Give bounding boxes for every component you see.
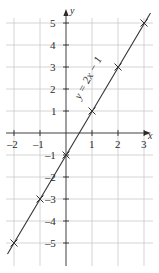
plotted-line xyxy=(8,13,151,254)
y-tick-label-neg5: –5 xyxy=(45,238,56,249)
x-tick-label-1: 1 xyxy=(89,139,94,150)
y-tick-label-4: 4 xyxy=(50,40,55,51)
y-axis-name-label: y xyxy=(70,6,74,16)
y-axis-arrowhead xyxy=(63,9,68,16)
y-tick-label-neg3: –3 xyxy=(45,194,56,205)
y-tick-label-neg2: –2 xyxy=(45,172,56,183)
x-tick-label-neg1: –1 xyxy=(33,139,44,150)
y-axis xyxy=(63,9,68,266)
y-tick-label-1: 1 xyxy=(51,106,56,117)
y-tick-label-neg4: –4 xyxy=(45,216,56,227)
plot-canvas xyxy=(0,0,159,273)
y-tick-label-neg1: –1 xyxy=(45,150,56,161)
x-tick-label-3: 3 xyxy=(141,139,146,150)
line-graph-figure: 5 4 3 2 1 –1 –2 –3 –4 –5 –2 –1 1 2 3 y x… xyxy=(0,0,159,273)
x-axis-name-label: x xyxy=(148,131,152,141)
x-tick-label-2: 2 xyxy=(115,139,120,150)
x-tick-label-neg2: –2 xyxy=(7,139,18,150)
y-tick-label-2: 2 xyxy=(50,84,55,95)
y-tick-label-3: 3 xyxy=(50,62,55,73)
y-tick-label-5: 5 xyxy=(50,18,55,29)
